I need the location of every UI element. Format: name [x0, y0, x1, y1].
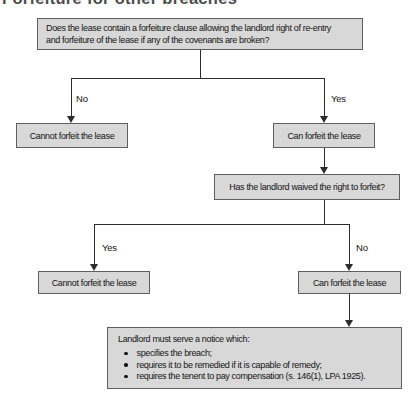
page: Forfeiture for other breaches Does the l… [0, 0, 415, 404]
outcome-box-cannot-forfeit-1: Cannot forfeit the lease [16, 123, 128, 148]
notice-bullet-item: specifies the breach; [118, 348, 395, 360]
notice-bullet-text: specifies the breach; [137, 348, 212, 360]
question-1-line-2: and forfeiture of the lease if any of th… [46, 35, 362, 47]
bullet-dot-icon [124, 363, 128, 367]
connector-branch1-left [71, 78, 72, 117]
connector-branch2-right [349, 224, 350, 265]
question-1-line-1: Does the lease contain a forfeiture clau… [46, 23, 362, 35]
question-box-forfeiture-clause: Does the lease contain a forfeiture clau… [37, 18, 363, 50]
arrow-down-icon [67, 116, 75, 123]
branch2-no-label: No [356, 242, 368, 253]
notice-bullet-item: requires the tenent to pay compensation … [118, 371, 395, 383]
notice-requirements-box: Landlord must serve a notice which: spec… [107, 327, 402, 389]
connector-to-notice [349, 294, 350, 321]
arrow-down-icon [90, 264, 98, 271]
outcome-box-cannot-forfeit-2: Cannot forfeit the lease [38, 271, 150, 294]
connector-q2-stem [324, 200, 325, 225]
connector-q1-stem [200, 50, 201, 78]
connector-to-q2 [324, 148, 325, 168]
bullet-dot-icon [124, 352, 128, 356]
connector-branch1-right [324, 78, 325, 117]
arrow-down-icon [320, 116, 328, 123]
notice-bullet-text: requires it to be remedied if it is capa… [137, 360, 322, 372]
notice-intro: Landlord must serve a notice which: [118, 334, 395, 345]
outcome-box-can-forfeit-2: Can forfeit the lease [298, 271, 401, 294]
arrow-down-icon [345, 264, 353, 271]
connector-branch1-horizontal [71, 78, 325, 79]
outcome-box-can-forfeit-1: Can forfeit the lease [273, 123, 375, 148]
notice-bullet-item: requires it to be remedied if it is capa… [118, 360, 395, 372]
branch1-no-label: No [76, 93, 88, 104]
arrow-down-icon [345, 320, 353, 327]
question-box-waived-right: Has the landlord waived the right to for… [214, 174, 400, 200]
arrow-down-icon [320, 167, 328, 174]
connector-branch2-horizontal [94, 224, 350, 225]
page-heading-clipped: Forfeiture for other breaches [2, 0, 237, 8]
branch2-yes-label: Yes [102, 242, 117, 253]
connector-branch2-left [94, 224, 95, 265]
bullet-dot-icon [124, 375, 128, 379]
notice-bullet-text: requires the tenent to pay compensation … [137, 371, 366, 383]
branch1-yes-label: Yes [331, 93, 346, 104]
